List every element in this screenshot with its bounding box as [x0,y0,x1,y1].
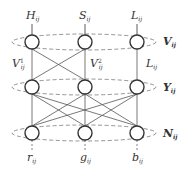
nodes [25,35,144,140]
label-l-mid: Lij [145,57,157,71]
node-l [130,35,144,49]
input-stubs [32,24,137,35]
edges-top-to-middle [32,49,137,80]
output-stubs [32,140,137,150]
edges-middle-to-bottom [32,94,137,126]
layer-label-y: Yij [163,81,176,95]
node-mid-3 [130,80,144,94]
label-h: Hij [25,9,40,23]
layer-label-n: Nij [162,127,178,141]
node-r [25,126,39,140]
node-mid-1 [25,80,39,94]
label-r: rij [27,151,36,165]
label-v1: V1ij [12,57,25,71]
node-mid-2 [78,80,92,94]
hsl-to-rgb-network-diagram: Hij Sij Lij V1ij V2ij Lij Vij Yij Nij ri… [0,0,186,174]
label-s: Sij [79,9,90,23]
label-g: gij [80,151,91,165]
node-b [130,126,144,140]
node-g [78,126,92,140]
layer-label-v: Vij [163,35,177,49]
label-b: bij [132,151,143,165]
label-v2: V2ij [90,57,103,71]
node-s [78,35,92,49]
node-h [25,35,39,49]
label-l: Lij [130,9,142,23]
